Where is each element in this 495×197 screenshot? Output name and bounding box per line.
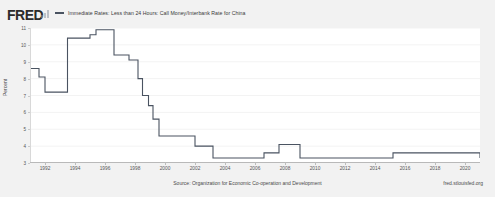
y-tick-label: 5 [10,127,26,132]
legend-series-label: Immediate Rates: Less than 24 Hours: Cal… [68,9,245,17]
x-tick-label: 2012 [340,166,351,171]
x-tick-label: 2016 [400,166,411,171]
chart-canvas [30,28,480,162]
y-tick-mark [28,96,30,97]
x-tick-mark [465,162,466,165]
x-tick-label: 2020 [460,166,471,171]
x-tick-label: 1996 [100,166,111,171]
y-axis-title: Percent [2,79,8,96]
x-tick-mark [405,162,406,165]
x-tick-mark [375,162,376,165]
fred-chart-frame: FRED Immediate Rates: Less than 24 Hours… [0,0,495,197]
y-tick-label: 8 [10,76,26,81]
footer-url[interactable]: fred.stlouisfed.org [443,180,483,186]
x-tick-label: 1992 [40,166,51,171]
y-tick-mark [28,129,30,130]
x-tick-mark [435,162,436,165]
y-tick-label: 11 [10,26,26,31]
plot-inner [30,28,480,162]
x-tick-mark [225,162,226,165]
y-tick-label: 4 [10,144,26,149]
line-swatch-icon [55,12,64,14]
x-tick-mark [195,162,196,165]
x-tick-label: 2006 [250,166,261,171]
y-tick-mark [28,163,30,164]
x-tick-mark [165,162,166,165]
y-tick-mark [28,62,30,63]
x-tick-mark [255,162,256,165]
x-tick-label: 2000 [160,166,171,171]
y-tick-label: 9 [10,59,26,64]
x-tick-mark [345,162,346,165]
y-tick-mark [28,146,30,147]
y-tick-label: 10 [10,42,26,47]
y-axis-line [30,28,31,163]
x-tick-mark [45,162,46,165]
series-line [30,30,480,158]
x-tick-label: 1994 [70,166,81,171]
x-tick-mark [75,162,76,165]
y-tick-mark [28,79,30,80]
plot-area[interactable] [30,28,480,163]
fred-logo: FRED [7,7,43,23]
x-tick-mark [285,162,286,165]
x-tick-label: 2018 [430,166,441,171]
y-tick-label: 3 [10,161,26,166]
chart-header: FRED Immediate Rates: Less than 24 Hours… [0,0,495,26]
x-tick-label: 2014 [370,166,381,171]
x-tick-label: 2004 [220,166,231,171]
x-tick-label: 1998 [130,166,141,171]
y-tick-mark [28,112,30,113]
y-tick-label: 7 [10,93,26,98]
y-tick-label: 6 [10,110,26,115]
x-tick-mark [135,162,136,165]
chart-legend[interactable]: Immediate Rates: Less than 24 Hours: Cal… [55,9,245,17]
x-tick-label: 2002 [190,166,201,171]
x-tick-mark [315,162,316,165]
y-tick-mark [28,28,30,29]
x-tick-label: 2010 [310,166,321,171]
x-tick-mark [105,162,106,165]
y-tick-mark [28,45,30,46]
x-tick-label: 2008 [280,166,291,171]
bar-chart-icon [41,10,50,18]
footer-source: Source: Organization for Economic Co-ope… [173,180,321,186]
